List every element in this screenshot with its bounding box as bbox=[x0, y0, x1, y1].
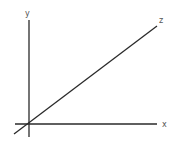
y-axis-label: y bbox=[25, 9, 30, 18]
axes-diagram: y x z bbox=[0, 0, 180, 148]
z-axis-label: z bbox=[159, 16, 163, 25]
z-axis bbox=[14, 26, 157, 134]
x-axis-label: x bbox=[162, 120, 167, 129]
